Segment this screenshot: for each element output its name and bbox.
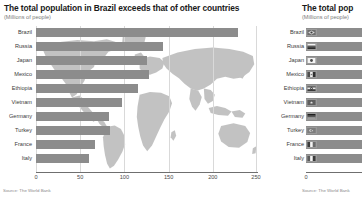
xtick-100: 100 — [120, 174, 129, 180]
flag-germany-icon — [306, 113, 317, 120]
flag-brazil-icon — [306, 29, 317, 36]
ylabel-russia: Russia — [15, 42, 32, 51]
right-label-ethiopia: Ethiopia — [284, 84, 304, 93]
right-row-france: France — [272, 140, 362, 149]
flag-mexico-icon — [306, 71, 317, 78]
bar-ethiopia — [36, 84, 138, 93]
right-chart-panel: The total pop (Millions of people) Brazi… — [272, 0, 362, 202]
right-row-turkey: Turkey — [272, 126, 362, 135]
x-axis-ticks: 0 50 100 150 200 250 — [36, 174, 257, 184]
source-note: Source: The World Bank — [3, 188, 51, 194]
flag-russia-icon — [306, 43, 317, 50]
bar-russia — [36, 42, 163, 51]
right-x-axis-line — [306, 172, 362, 173]
xtick-0: 0 — [34, 174, 37, 180]
right-label-russia: Russia — [287, 42, 304, 51]
right-row-vietnam: Vietnam — [272, 98, 362, 107]
bar-series — [36, 26, 257, 172]
right-row-ethiopia: Ethiopia — [272, 84, 362, 93]
right-row-russia: Russia — [272, 42, 362, 51]
plot-area — [36, 26, 257, 172]
bar-italy — [36, 154, 89, 163]
bar-turkey — [36, 126, 110, 135]
x-axis-line — [36, 172, 258, 173]
xtick-50: 50 — [77, 174, 83, 180]
right-label-japan: Japan — [289, 56, 304, 65]
bar-mexico — [36, 70, 149, 79]
right-label-vietnam: Vietnam — [284, 98, 304, 107]
xtick-200: 200 — [208, 174, 217, 180]
ylabel-japan: Japan — [17, 56, 32, 65]
category-axis-labels: Brazil Russia Japan Mexico Ethiopia Viet… — [0, 26, 34, 172]
bar-vietnam — [36, 98, 122, 107]
flag-italy-icon — [306, 155, 317, 162]
flag-japan-icon — [306, 57, 317, 64]
right-row-mexico: Mexico — [272, 70, 362, 79]
bar-france — [36, 140, 95, 149]
flag-turkey-icon — [306, 127, 317, 134]
xtick-250: 250 — [251, 174, 260, 180]
right-row-italy: Italy — [272, 154, 362, 163]
right-row-brazil: Brazil — [272, 28, 362, 37]
ylabel-germany: Germany — [9, 112, 32, 121]
ylabel-france: France — [15, 140, 32, 149]
right-row-japan: Japan — [272, 56, 362, 65]
right-label-brazil: Brazil — [290, 28, 304, 37]
flag-vietnam-icon — [306, 99, 317, 106]
chart-subtitle: (Millions of people) — [4, 14, 51, 21]
ylabel-mexico: Mexico — [14, 70, 32, 79]
flag-ethiopia-icon — [306, 85, 317, 92]
right-label-italy: Italy — [294, 154, 304, 163]
right-row-germany: Germany — [272, 112, 362, 121]
right-label-france: France — [287, 140, 304, 149]
flag-france-icon — [306, 141, 317, 148]
right-bar-series: Brazil Russia Japan — [272, 26, 362, 172]
right-chart-subtitle: (Millions of people) — [302, 14, 349, 21]
bar-japan — [36, 56, 147, 65]
right-label-turkey: Turkey — [287, 126, 304, 135]
infographic-stage: The total population in Brazil exceeds t… — [0, 0, 362, 202]
panel-divider — [270, 0, 271, 202]
bar-brazil — [36, 28, 238, 37]
page-title: The total population in Brazil exceeds t… — [4, 3, 239, 13]
left-chart-panel: The total population in Brazil exceeds t… — [0, 0, 268, 202]
ylabel-brazil: Brazil — [18, 28, 32, 37]
bar-germany — [36, 112, 109, 121]
ylabel-ethiopia: Ethiopia — [12, 84, 32, 93]
xtick-150: 150 — [164, 174, 173, 180]
right-page-title: The total pop — [302, 3, 353, 13]
ylabel-italy: Italy — [22, 154, 32, 163]
ylabel-turkey: Turkey — [15, 126, 32, 135]
right-label-mexico: Mexico — [286, 70, 304, 79]
right-label-germany: Germany — [281, 112, 304, 121]
ylabel-vietnam: Vietnam — [12, 98, 32, 107]
right-xtick-0: 0 — [304, 174, 307, 180]
right-source-note: Source: The World Bank — [302, 188, 350, 194]
